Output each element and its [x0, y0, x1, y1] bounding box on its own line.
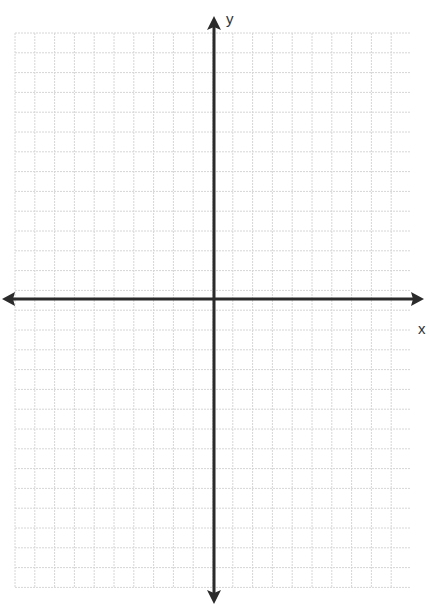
coordinate-plane [0, 0, 429, 607]
x-axis-label: x [418, 320, 426, 337]
y-axis-label: y [226, 10, 234, 27]
